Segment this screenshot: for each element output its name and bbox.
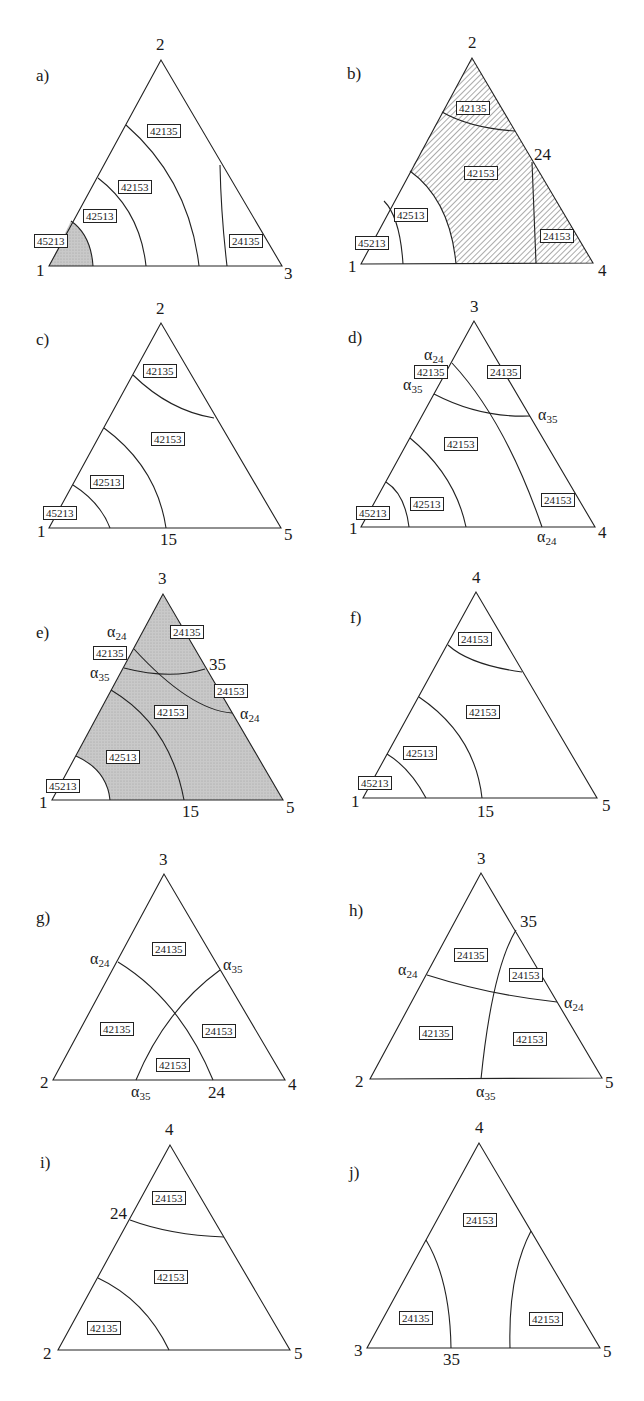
triangle-outline [49, 323, 281, 528]
edge-mark-35: 35 [520, 913, 537, 930]
region-label: 42135 [147, 124, 181, 138]
edge-mark-alpha-24-right: α24 [564, 995, 583, 1013]
vertex-top: 2 [468, 34, 477, 51]
region-label: 42153 [466, 705, 500, 719]
edge-mark-15: 15 [182, 803, 199, 820]
region-label: 24135 [399, 1311, 433, 1325]
edge-mark-alpha-24: α24 [90, 951, 109, 969]
region-label: 24153 [540, 229, 574, 243]
region-label: 42135 [419, 1026, 453, 1040]
triangle-outline [363, 592, 597, 798]
region-label: 45213 [34, 234, 68, 248]
region-label: 42153 [529, 1312, 563, 1326]
region-label: 45213 [46, 779, 80, 793]
vertex-left: 1 [348, 258, 357, 275]
subscript: 35 [484, 1090, 495, 1102]
boundary-curve [73, 485, 110, 528]
vertex-top: 2 [156, 36, 165, 53]
panel-f-diagram [363, 592, 597, 798]
edge-mark-alpha-24-top: α24 [107, 624, 126, 642]
vertex-top: 3 [470, 298, 479, 315]
panel-i-diagram [58, 1145, 290, 1350]
subscript: 24 [572, 1001, 583, 1013]
edge-mark: 15 [160, 531, 177, 548]
edge-mark-24: 24 [208, 1084, 225, 1101]
edge-mark-alpha-35-bottom: α35 [131, 1084, 150, 1102]
region-label: 42513 [403, 746, 437, 760]
region-label: 24135 [454, 948, 488, 962]
region-label: 24135 [229, 234, 263, 248]
region-label: 42513 [106, 750, 140, 764]
boundary-curve [220, 165, 227, 266]
region-label: 42135 [100, 1022, 134, 1036]
boundary-curve [386, 482, 409, 527]
region-label: 45213 [358, 776, 392, 790]
panel-label-e: e) [36, 623, 49, 643]
boundary-curve [426, 1240, 451, 1348]
boundary-curve [434, 394, 530, 416]
region-label: 24153 [541, 493, 575, 507]
panel-label-c: c) [36, 330, 49, 350]
region-label: 42135 [93, 646, 127, 660]
vertex-top: 4 [475, 1119, 484, 1136]
region-label: 42513 [410, 497, 444, 511]
boundary-curve [448, 645, 522, 672]
vertex-left: 1 [39, 794, 48, 811]
region-label: 45213 [356, 506, 390, 520]
panel-label-g: g) [36, 908, 50, 928]
region-label: 24135 [152, 942, 186, 956]
vertex-right: 5 [603, 1343, 612, 1360]
edge-mark-35: 35 [209, 656, 226, 673]
panel-c-diagram [49, 323, 281, 528]
region-label: 24153 [214, 684, 248, 698]
region-label: 24135 [487, 365, 521, 379]
edge-mark-alpha-24-bottom: α24 [537, 529, 556, 547]
triangle-outline [53, 874, 285, 1080]
subscript: 24 [98, 957, 109, 969]
subscript: 24 [248, 712, 259, 724]
vertex-right: 5 [605, 1074, 614, 1091]
vertex-left: 3 [354, 1342, 363, 1359]
vertex-top: 3 [159, 851, 168, 868]
region-label: 45213 [43, 506, 77, 520]
subscript: 35 [139, 1090, 150, 1102]
panel-label-f: f) [350, 608, 361, 628]
region-label: 24153 [509, 968, 543, 982]
region-label: 42153 [464, 166, 498, 180]
edge-mark: 24 [534, 146, 551, 163]
edge-mark: 35 [443, 1351, 460, 1368]
region-label: 42153 [154, 705, 188, 719]
region-label: 45213 [355, 236, 389, 250]
edge-mark: 24 [110, 1205, 127, 1222]
vertex-left: 2 [43, 1345, 52, 1362]
boundary-curve [510, 1231, 531, 1348]
boundary-curve [133, 375, 214, 418]
region-label: 42513 [90, 475, 124, 489]
vertex-left: 1 [36, 262, 45, 279]
vertex-top: 4 [165, 1121, 174, 1138]
panel-label-b: b) [347, 64, 361, 84]
region-label: 24135 [170, 625, 204, 639]
edge-mark: 15 [477, 803, 494, 820]
vertex-left: 1 [351, 793, 360, 810]
region-label: 24153 [202, 1024, 236, 1038]
boundary-curve [98, 1278, 169, 1350]
region-label: 24153 [463, 1213, 497, 1227]
subscript: 24 [545, 535, 556, 547]
vertex-right: 5 [284, 526, 293, 543]
vertex-right: 5 [286, 799, 295, 816]
vertex-left: 1 [37, 523, 46, 540]
boundary-curve [130, 1220, 224, 1237]
edge-mark-alpha-24-left: α24 [398, 962, 417, 980]
region-label: 42135 [414, 365, 448, 379]
panel-g-diagram [53, 874, 285, 1080]
region-label: 42153 [513, 1032, 547, 1046]
vertex-left: 2 [355, 1073, 364, 1090]
subscript: 24 [406, 968, 417, 980]
triangle-outline [58, 1145, 290, 1350]
region-label: 42513 [83, 209, 117, 223]
vertex-right: 3 [284, 265, 293, 282]
region-label: 42513 [394, 208, 428, 222]
region-label: 42135 [143, 364, 177, 378]
vertex-right: 4 [598, 524, 607, 541]
